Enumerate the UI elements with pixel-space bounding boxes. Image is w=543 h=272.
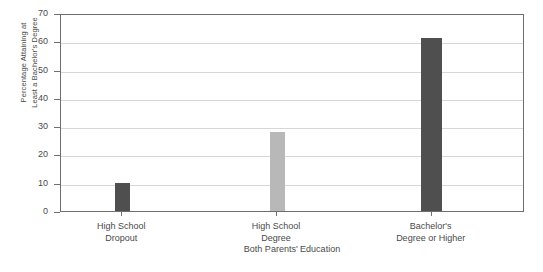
gridline [61, 43, 523, 44]
x-axis-title: Both Parents' Education [60, 244, 524, 254]
x-axis-category-label: Bachelor'sDegree or Higher [371, 221, 491, 244]
y-axis-tick-label: 30 [0, 121, 48, 131]
gridline [61, 156, 523, 157]
x-axis-category-label-line: Degree or Higher [371, 233, 491, 245]
x-axis-category-label-line: High School [61, 221, 181, 233]
x-axis-category-label: High SchoolDropout [61, 221, 181, 244]
x-axis-category-label-line: High School [216, 221, 336, 233]
x-axis-category-label: High SchoolDegree [216, 221, 336, 244]
x-axis-category-label-line: Bachelor's [371, 221, 491, 233]
bar [115, 183, 130, 211]
bar [421, 38, 442, 211]
bar [270, 132, 285, 211]
plot-area [60, 14, 524, 212]
x-axis-tick [431, 212, 432, 216]
x-axis-tick [121, 212, 122, 216]
gridline [61, 128, 523, 129]
gridline [61, 185, 523, 186]
bar-chart-figure: Percentage Attaining at Least a Bachelor… [0, 0, 543, 272]
x-axis-tick [276, 212, 277, 216]
gridline [61, 100, 523, 101]
gridline [61, 72, 523, 73]
x-axis-category-label-line: Dropout [61, 233, 181, 245]
y-axis-tick-label: 20 [0, 149, 48, 159]
y-axis-tick-label: 70 [0, 8, 48, 18]
y-axis-tick [54, 212, 60, 213]
x-axis-category-label-line: Degree [216, 233, 336, 245]
y-axis-tick-label: 60 [0, 36, 48, 46]
y-axis-tick-label: 10 [0, 178, 48, 188]
y-axis-tick-label: 0 [0, 206, 48, 216]
y-axis-tick-label: 40 [0, 93, 48, 103]
y-axis-tick-label: 50 [0, 65, 48, 75]
